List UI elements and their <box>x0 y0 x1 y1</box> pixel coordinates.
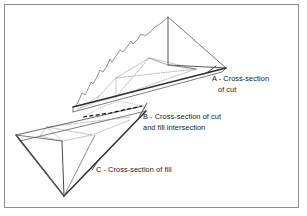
label-a-line2: of cut <box>218 85 236 94</box>
cut-edge-base-long <box>73 72 222 112</box>
label-a-line1: A - Cross-section <box>212 74 269 83</box>
label-b: B - Cross-section of cut and fill inters… <box>143 112 221 132</box>
fill-section-c-left-inner <box>20 141 64 196</box>
label-b-line1: B - Cross-section of cut <box>143 112 221 121</box>
cut-edge-apex-to-right <box>168 17 226 68</box>
fill-section-c-cap <box>16 135 20 141</box>
cut-terrain-profile <box>73 17 168 107</box>
cut-volume-group <box>73 17 226 112</box>
cut-edge-front-long <box>73 68 226 107</box>
fill-hidden-back-long <box>47 127 92 135</box>
fill-hidden-low-long <box>62 135 92 141</box>
cut-and-fill-diagram: A - Cross-section of cut B - Cross-secti… <box>0 0 307 216</box>
cut-edge-back-crest <box>149 58 168 65</box>
label-c: C - Cross-section of fill <box>96 165 172 174</box>
cut-hidden-ridge-back <box>116 58 149 78</box>
fill-edge-lower-inner <box>64 135 95 196</box>
label-c-line1: C - Cross-section of fill <box>96 165 172 174</box>
fill-apex-vertical <box>62 141 64 196</box>
fill-hidden-edges <box>40 117 130 141</box>
cut-hidden-small-e <box>99 78 116 96</box>
figure-root: A - Cross-section of cut B - Cross-secti… <box>0 0 307 216</box>
label-b-line2: and fill intersection <box>143 123 205 132</box>
label-a: A - Cross-section of cut <box>212 74 269 94</box>
cut-hidden-back-right <box>149 58 196 69</box>
section-b-dashed-line <box>83 106 142 117</box>
fill-volume-group <box>16 106 146 196</box>
